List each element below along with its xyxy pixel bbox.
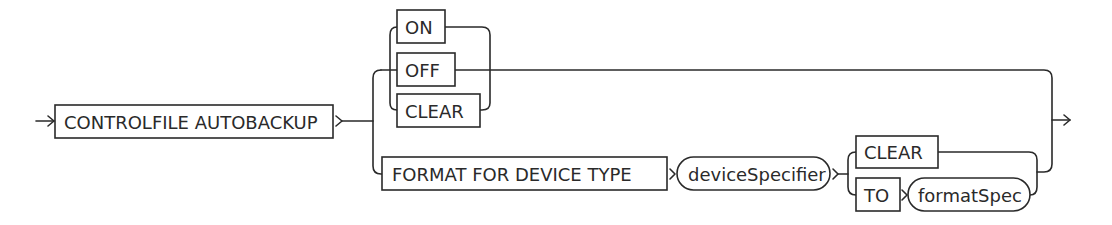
option-clear-2: CLEAR <box>856 136 938 168</box>
svg-text:ON: ON <box>405 17 433 38</box>
svg-text:CLEAR: CLEAR <box>864 142 923 163</box>
svg-text:formatSpec: formatSpec <box>918 185 1022 206</box>
connector-chevron-icon <box>902 190 907 200</box>
exit-arrow-icon <box>1052 115 1070 125</box>
keyword-controlfile-autobackup: CONTROLFILE AUTOBACKUP <box>55 105 333 138</box>
keyword-format-for-device-type: FORMAT FOR DEVICE TYPE <box>382 157 667 190</box>
variable-format-spec: formatSpec <box>908 178 1030 211</box>
option-clear: CLEAR <box>397 94 480 127</box>
variable-device-specifier: deviceSpecifier <box>677 157 830 190</box>
split-line <box>373 70 382 174</box>
syntax-diagram: CONTROLFILE AUTOBACKUP ON OFF CLEAR FORM… <box>0 0 1112 225</box>
option-off: OFF <box>397 53 455 86</box>
svg-text:CLEAR: CLEAR <box>405 101 464 122</box>
connector-chevron-icon <box>336 116 373 126</box>
connector-chevron-icon <box>670 169 675 179</box>
svg-text:FORMAT FOR DEVICE TYPE: FORMAT FOR DEVICE TYPE <box>392 164 632 185</box>
svg-text:TO: TO <box>863 185 889 206</box>
option-on: ON <box>397 10 445 43</box>
sub-options-left-bracket <box>848 152 856 195</box>
connector-chevron-icon <box>833 169 848 179</box>
svg-text:deviceSpecifier: deviceSpecifier <box>688 164 826 185</box>
option-to: TO <box>856 178 900 211</box>
entry-arrow-icon <box>36 116 54 126</box>
svg-text:CONTROLFILE AUTOBACKUP: CONTROLFILE AUTOBACKUP <box>64 112 318 133</box>
svg-text:OFF: OFF <box>405 60 440 81</box>
